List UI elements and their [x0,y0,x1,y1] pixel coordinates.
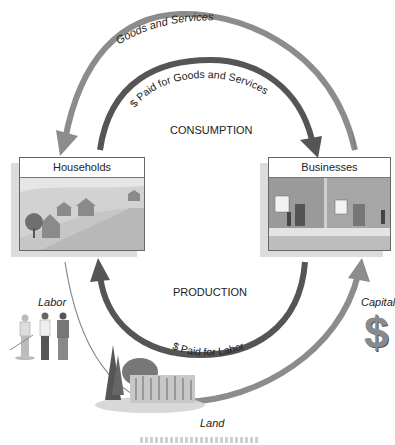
consumption-label: CONSUMPTION [170,124,253,136]
goods-services-label: Goods and Services [114,10,215,46]
production-label: PRODUCTION [173,286,247,298]
svg-text:Goods and Services: Goods and Services [114,10,215,46]
businesses-illustration [269,178,390,250]
capital-label: Capital [361,296,395,308]
businesses-title: Businesses [269,158,390,178]
caption-placeholder [140,437,260,443]
land-label: Land [200,417,224,429]
households-title: Households [20,158,144,178]
paid-labor-arrow [90,258,305,355]
households-illustration [20,178,144,250]
labor-people-illustration [10,313,69,361]
businesses-node: Businesses [268,157,391,251]
labor-label: Labor [38,296,66,308]
dollar-sign-icon: $ [364,308,388,358]
households-node: Households [19,157,145,251]
